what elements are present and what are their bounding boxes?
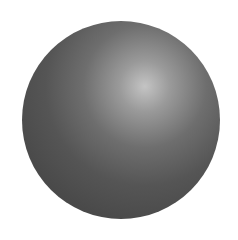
shaded-sphere: [22, 21, 220, 219]
